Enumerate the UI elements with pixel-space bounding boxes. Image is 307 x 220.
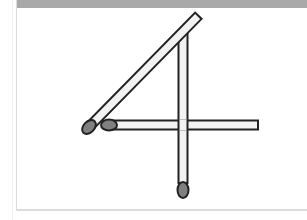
matchstick-vertical-overlap [179,120,188,131]
matchstick-figure [0,0,307,220]
match-head-icon [178,182,189,198]
matchstick-vertical[interactable] [178,33,189,198]
match-head-icon [101,120,117,131]
puzzle-stage: Matchstick puzzle [0,0,307,220]
